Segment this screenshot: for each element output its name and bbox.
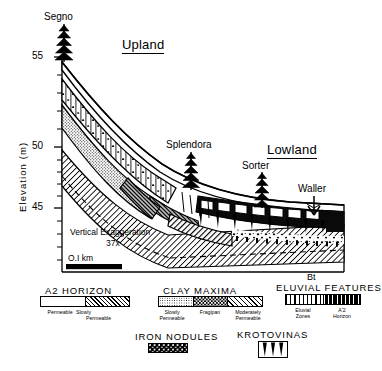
y-axis-minor-ticks (57, 75, 62, 260)
legend-swatches-a2-horizon (40, 296, 130, 307)
site-label-waller: Waller (298, 184, 326, 194)
legend-title-a2-horizon: A2 HORIZON (45, 285, 112, 296)
tree-symbol-segno (55, 24, 73, 62)
site-label-sorter: Sorter (242, 161, 269, 171)
legend-swatch-a2-permeable (41, 297, 85, 306)
legend-title-krotovinas: KROTOVINAS (237, 329, 308, 340)
y-axis-title: Elevation (m) (18, 142, 28, 212)
y-tick-45: 45 (32, 202, 43, 212)
y-tick-50: 50 (32, 141, 43, 151)
krotovina-glyph-icon (259, 342, 287, 359)
legend-swatch-iron-nodules (149, 344, 187, 352)
upland-heading: Upland (122, 38, 164, 54)
legend-swatch-krotovinas (258, 341, 288, 358)
y-tick-55: 55 (32, 51, 43, 61)
legend-swatch-clay-slowly-permeable (159, 297, 193, 306)
legend-title-iron-nodules: IRON NODULES (135, 331, 218, 342)
legend-sublabel-eluvial-zones: Eluvial Zones (283, 307, 323, 319)
legend-swatch-eluvial-zones (286, 295, 323, 304)
scale-bar-label: O.I km (68, 253, 93, 264)
legend-sublabel-a2-prime-horizon: A'2 Horizon (322, 307, 362, 319)
legend-swatches-iron-nodules (148, 343, 188, 353)
legend-swatch-clay-moderately-permeable (227, 297, 262, 306)
legend-title-eluvial-features: ELUVIAL FEATURES (276, 282, 382, 293)
legend-sublabel-clay-fragipan: Fragipan (190, 309, 230, 315)
vertical-exaggeration-line2: 37x (106, 238, 120, 249)
legend-swatch-a2-prime-horizon (323, 295, 361, 304)
site-label-segno: Segno (44, 12, 73, 22)
legend-swatch-a2-slowly-permeable (85, 297, 130, 306)
legend-title-clay-maxima: CLAY MAXIMA (163, 285, 237, 296)
legend-swatches-eluvial-features (285, 294, 361, 305)
y-axis-major-ticks (54, 57, 62, 208)
vertical-exaggeration-line1: Vertical Exaggeration (70, 227, 150, 238)
legend-sublabel-clay-slowly-permeable: Slowly Permeable (150, 309, 194, 321)
upland-heading-text: Upland (122, 38, 164, 54)
scale-bar (66, 264, 122, 269)
lowland-heading: Lowland (267, 143, 317, 159)
site-label-splendora: Splendora (166, 140, 212, 150)
legend-swatches-clay-maxima (158, 296, 263, 307)
legend-sublabel-clay-moderately-permeable: Moderately Permeable (225, 309, 271, 321)
legend-swatch-clay-fragipan (193, 297, 228, 306)
legend-sublabel-a2-slowly-permeable: Slowly Permeable (76, 309, 132, 321)
lowland-heading-text: Lowland (267, 143, 317, 159)
